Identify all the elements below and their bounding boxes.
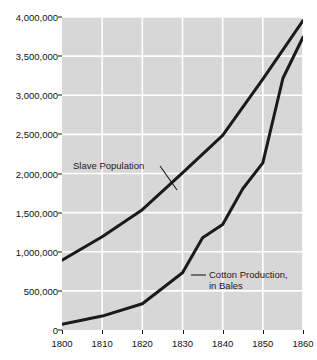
y-axis-tick-mark — [58, 173, 62, 174]
y-axis-tick-mark — [58, 251, 62, 252]
y-axis-tick-label: 4,000,000 — [16, 13, 58, 22]
y-axis: 0500,0001,000,0001,500,0002,000,0002,500… — [0, 0, 58, 360]
y-axis-tick-mark — [58, 56, 62, 57]
x-axis-tick-mark — [142, 330, 143, 334]
annotation-slave-population-label: Slave Population — [73, 160, 144, 171]
annotation-slave-population: Slave Population — [73, 160, 144, 171]
annotation-cotton-production-line2: in Bales — [209, 280, 288, 291]
x-axis-tick-mark — [263, 330, 264, 334]
y-axis-tick-mark — [58, 290, 62, 291]
annotation-cotton-production-line1: Cotton Production, — [209, 269, 288, 280]
x-axis-tick-mark — [102, 330, 103, 334]
x-axis-tick-label: 1800 — [51, 338, 72, 349]
y-axis-tick-label: 500,000 — [24, 286, 58, 295]
annotation-cotton-production: Cotton Production, in Bales — [209, 269, 288, 291]
x-axis-tick-mark — [62, 330, 63, 334]
x-axis-tick-label: 1860 — [292, 338, 313, 349]
y-axis-tick-label: 3,000,000 — [16, 91, 58, 100]
y-axis-tick-label: 3,500,000 — [16, 52, 58, 61]
y-axis-tick-mark — [58, 212, 62, 213]
x-axis-tick-mark — [303, 330, 304, 334]
y-axis-tick-mark — [58, 134, 62, 135]
x-axis-tick-label: 1850 — [252, 338, 273, 349]
x-axis-tick-label: 1840 — [212, 338, 233, 349]
y-axis-tick-label: 2,500,000 — [16, 130, 58, 139]
y-axis-tick-label: 2,000,000 — [16, 169, 58, 178]
y-axis-tick-label: 1,500,000 — [16, 208, 58, 217]
y-axis-tick-mark — [58, 95, 62, 96]
x-axis-tick-label: 1820 — [132, 338, 153, 349]
x-axis-tick-mark — [223, 330, 224, 334]
y-axis-tick-mark — [58, 17, 62, 18]
chart-container: 0500,0001,000,0001,500,0002,000,0002,500… — [0, 0, 317, 360]
x-axis-tick-mark — [183, 330, 184, 334]
y-axis-tick-label: 1,000,000 — [16, 247, 58, 256]
x-axis-tick-label: 1810 — [92, 338, 113, 349]
x-axis-tick-label: 1830 — [172, 338, 193, 349]
